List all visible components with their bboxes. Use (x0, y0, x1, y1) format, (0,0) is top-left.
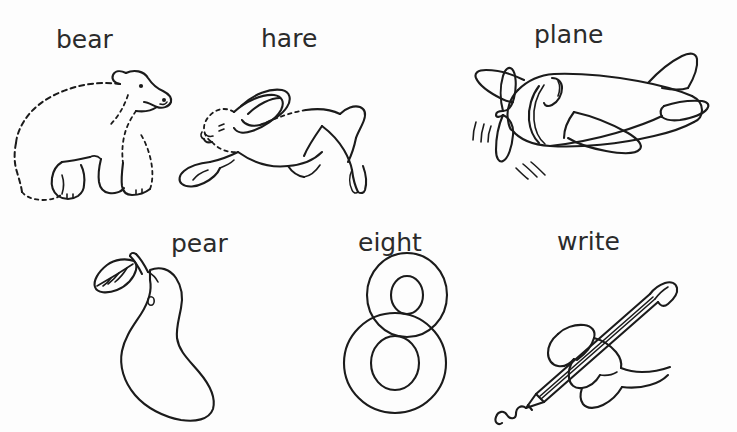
worksheet-canvas: bear (0, 0, 737, 432)
writing-hand-line-drawing-icon (492, 272, 697, 417)
hare-line-drawing-icon (172, 70, 402, 200)
pear-line-drawing-icon (82, 248, 267, 423)
picture-label-write: write (557, 229, 620, 254)
picture-label-hare: hare (261, 26, 317, 51)
picture-label-bear: bear (56, 27, 113, 52)
plane-line-drawing-icon (440, 48, 715, 193)
picture-label-plane: plane (534, 22, 603, 47)
eight-numeral-outline-icon (333, 250, 473, 415)
bear-line-drawing-icon (8, 55, 183, 205)
